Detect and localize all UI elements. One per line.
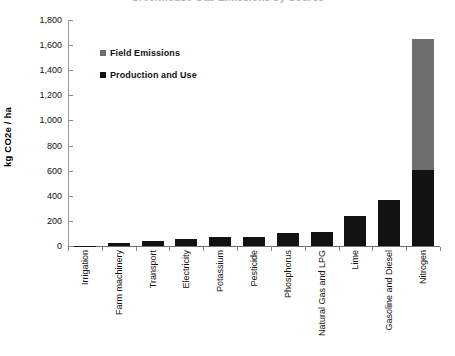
legend-item-production-and-use: Production and Use	[100, 67, 240, 82]
y-axis-tick-label: 800	[28, 141, 62, 151]
bar-lime	[344, 216, 366, 246]
bar-pesticide	[243, 237, 265, 246]
legend-label-field-emissions: Field Emissions	[110, 48, 180, 58]
x-axis-tick-mark	[440, 247, 441, 251]
bar-segment-production-and-use	[344, 216, 366, 246]
bar-segment-production-and-use	[108, 243, 130, 246]
bar-segment-field-emissions	[412, 39, 434, 170]
y-axis-tick-mark	[69, 246, 73, 247]
bar-gasoline-and-diesel	[378, 200, 400, 246]
x-axis-label-electricity: Electricity	[181, 250, 191, 289]
bar-transport	[142, 241, 164, 246]
bar-segment-production-and-use	[142, 241, 164, 246]
y-axis-title: kg CO2e / ha	[2, 92, 16, 182]
bar-natural-gas-and-lpg	[311, 232, 333, 246]
y-axis-tick-label: 0	[28, 241, 62, 251]
x-axis-label-transport: Transport	[148, 250, 158, 288]
bar-segment-production-and-use	[311, 232, 333, 246]
bar-segment-production-and-use	[175, 239, 197, 246]
y-axis-tick-label: 1,000	[28, 115, 62, 125]
bar-irrigation	[74, 246, 96, 247]
bar-phosphorus	[277, 233, 299, 246]
y-axis-tick-label: 600	[28, 166, 62, 176]
y-axis-tick-label: 1,400	[28, 65, 62, 75]
y-axis-tick-label: 400	[28, 191, 62, 201]
bar-farm-machinery	[108, 243, 130, 246]
chart-title-clipped: Greenhouse Gas Emissions by Source	[0, 0, 455, 3]
x-axis-label-natural-gas-and-lpg: Natural Gas and LPG	[317, 250, 327, 336]
legend-label-production-and-use: Production and Use	[110, 70, 197, 80]
x-axis-category-labels: IrrigationFarm machineryTransportElectri…	[68, 250, 440, 354]
x-axis-label-pesticide: Pesticide	[249, 250, 259, 287]
bar-segment-production-and-use	[378, 200, 400, 246]
y-axis-tick-label: 200	[28, 216, 62, 226]
y-axis-tick-label: 1,600	[28, 40, 62, 50]
bar-chart: Greenhouse Gas Emissions by Source kg CO…	[0, 0, 455, 356]
legend-swatch-icon-production-and-use	[100, 72, 106, 78]
chart-legend: Field Emissions Production and Use	[100, 45, 240, 89]
y-axis-tick-label: 1,200	[28, 90, 62, 100]
x-axis-label-phosphorus: Phosphorus	[283, 250, 293, 298]
bar-segment-production-and-use	[209, 237, 231, 246]
bar-segment-production-and-use	[412, 170, 434, 246]
x-axis-label-lime: Lime	[350, 250, 360, 270]
x-axis-label-nitrogen: Nitrogen	[418, 250, 428, 284]
bar-electricity	[175, 239, 197, 246]
x-axis-label-irrigation: Irrigation	[80, 250, 90, 285]
bar-segment-production-and-use	[243, 237, 265, 246]
x-axis-label-gasoline-and-diesel: Gasoline and Diesel	[384, 250, 394, 331]
legend-swatch-icon-field-emissions	[100, 50, 106, 56]
x-axis-label-potassium: Potassium	[215, 250, 225, 292]
bar-potassium	[209, 237, 231, 246]
x-axis-label-farm-machinery: Farm machinery	[114, 250, 124, 315]
bar-segment-production-and-use	[74, 246, 96, 247]
y-axis-tick-label: 1,800	[28, 15, 62, 25]
x-axis-line	[68, 246, 440, 247]
bar-segment-production-and-use	[277, 233, 299, 246]
legend-item-field-emissions: Field Emissions	[100, 45, 240, 60]
bar-nitrogen	[412, 39, 434, 246]
